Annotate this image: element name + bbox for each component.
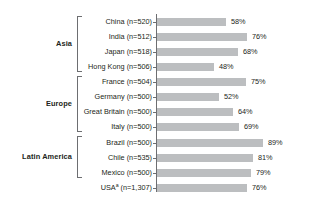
row-label-usa-sample: (n=1,307)	[119, 183, 152, 192]
row-label-brazil: Brazil (n=500)	[106, 139, 152, 146]
bar-usa	[157, 184, 247, 193]
bar-value-great-britain: 64%	[238, 108, 253, 115]
bar-great-britain	[157, 108, 233, 117]
bar-value-india: 76%	[252, 33, 267, 40]
axis-tick	[153, 173, 156, 174]
row-label-chile: Chile (n=535)	[108, 154, 152, 161]
row-label-hong-kong: Hong Kong (n=506)	[88, 63, 152, 70]
bar-chart: Asia Europe Latin America China (n=520) …	[0, 0, 312, 214]
axis-tick	[153, 97, 156, 98]
bar-row: Germany (n=500) 52%	[0, 90, 312, 104]
row-label-usa-name: USA	[101, 183, 116, 192]
bar-chile	[157, 154, 253, 163]
bar-row: Mexico (n=500) 79%	[0, 166, 312, 180]
bar-row: Hong Kong (n=506) 48%	[0, 60, 312, 74]
bar-value-chile: 81%	[258, 154, 273, 161]
bar-row: India (n=512) 76%	[0, 30, 312, 44]
bar-row: Brazil (n=500) 89%	[0, 136, 312, 150]
bar-value-china: 58%	[231, 18, 246, 25]
axis-tick	[153, 143, 156, 144]
axis-tick	[153, 188, 156, 189]
bar-hong-kong	[157, 63, 214, 72]
row-label-italy: Italy (n=500)	[111, 123, 152, 130]
bar-italy	[157, 123, 239, 132]
axis-tick	[153, 158, 156, 159]
bar-row: Japan (n=518) 68%	[0, 45, 312, 59]
row-label-india: India (n=512)	[109, 33, 152, 40]
row-label-mexico: Mexico (n=500)	[102, 169, 153, 176]
bar-brazil	[157, 139, 263, 148]
bar-france	[157, 78, 246, 87]
bar-row: France (n=504) 75%	[0, 75, 312, 89]
bar-row: Italy (n=500) 69%	[0, 120, 312, 134]
bar-row: Chile (n=535) 81%	[0, 151, 312, 165]
bar-value-mexico: 79%	[256, 169, 271, 176]
axis-tick	[153, 37, 156, 38]
row-label-china: China (n=520)	[106, 18, 152, 25]
bar-value-germany: 52%	[224, 93, 239, 100]
bar-row: Great Britain (n=500) 64%	[0, 105, 312, 119]
bar-india	[157, 33, 247, 42]
axis-tick	[153, 82, 156, 83]
axis-tick	[153, 52, 156, 53]
row-label-usa: USAa (n=1,307)	[101, 184, 152, 191]
bar-value-brazil: 89%	[268, 139, 283, 146]
bar-row: China (n=520) 58%	[0, 15, 312, 29]
axis-tick	[153, 127, 156, 128]
bar-japan	[157, 48, 238, 57]
bar-row: USAa (n=1,307) 76%	[0, 181, 312, 195]
row-label-great-britain: Great Britain (n=500)	[84, 108, 152, 115]
bar-china	[157, 18, 226, 27]
bar-value-france: 75%	[251, 78, 266, 85]
row-label-japan: Japan (n=518)	[105, 48, 152, 55]
row-label-france: France (n=504)	[102, 78, 152, 85]
bar-germany	[157, 93, 219, 102]
bar-mexico	[157, 169, 251, 178]
axis-tick	[153, 112, 156, 113]
axis-tick	[153, 22, 156, 23]
bar-value-usa: 76%	[252, 184, 267, 191]
row-label-germany: Germany (n=500)	[95, 93, 152, 100]
bar-value-japan: 68%	[243, 48, 258, 55]
bar-value-hong-kong: 48%	[219, 63, 234, 70]
bar-value-italy: 69%	[244, 123, 259, 130]
axis-tick	[153, 67, 156, 68]
